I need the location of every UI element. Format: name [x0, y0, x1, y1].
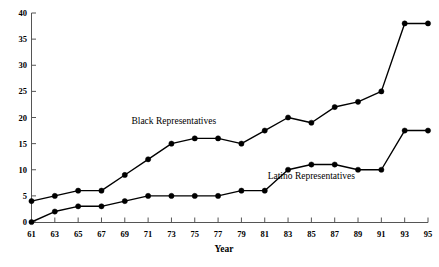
data-point — [169, 193, 174, 198]
data-point — [425, 128, 430, 133]
data-point — [76, 188, 81, 193]
y-axis: 0510152025303540 — [19, 8, 37, 227]
x-tick-label: 73 — [167, 229, 176, 239]
series-line — [32, 23, 429, 201]
x-tick-label: 77 — [214, 229, 223, 239]
x-tick-label: 69 — [121, 229, 130, 239]
data-point — [122, 172, 127, 177]
data-point — [379, 167, 384, 172]
data-point — [192, 136, 197, 141]
x-tick-label: 75 — [191, 229, 200, 239]
data-point — [332, 162, 337, 167]
data-point — [215, 193, 220, 198]
x-tick-label: 87 — [330, 229, 339, 239]
x-tick-label: 89 — [354, 229, 363, 239]
data-point — [262, 128, 267, 133]
data-point — [332, 104, 337, 109]
data-point — [52, 193, 57, 198]
line-chart: 0510152025303540 61636567697173757779818… — [0, 0, 439, 267]
series-group — [29, 21, 431, 225]
data-point — [29, 199, 34, 204]
y-tick-label: 15 — [19, 139, 28, 149]
series-line — [32, 131, 429, 222]
data-point — [309, 162, 314, 167]
data-point — [99, 204, 104, 209]
x-tick-label: 95 — [424, 229, 433, 239]
x-tick-label: 67 — [97, 229, 106, 239]
data-point — [402, 128, 407, 133]
y-tick-label: 0 — [23, 217, 27, 227]
series-annotation-label: Black Representatives — [131, 116, 216, 126]
x-tick-group: 616365676971737577798183858789919395 — [27, 218, 432, 240]
data-point — [285, 115, 290, 120]
x-tick-label: 85 — [307, 229, 316, 239]
y-tick-label: 25 — [19, 86, 28, 96]
y-tick-label: 40 — [19, 8, 28, 18]
x-tick-label: 93 — [400, 229, 409, 239]
x-tick-label: 61 — [27, 229, 36, 239]
y-tick-group: 0510152025303540 — [19, 8, 37, 227]
x-tick-label: 81 — [260, 229, 269, 239]
chart-container: 0510152025303540 61636567697173757779818… — [0, 0, 439, 267]
x-tick-label: 91 — [377, 229, 386, 239]
data-point — [215, 136, 220, 141]
x-tick-label: 83 — [284, 229, 293, 239]
y-tick-label: 35 — [19, 34, 28, 44]
y-tick-label: 20 — [19, 113, 28, 123]
data-point — [76, 204, 81, 209]
data-point — [192, 193, 197, 198]
data-point — [239, 188, 244, 193]
data-point — [402, 21, 407, 26]
series-annotation-label: Latino Representatives — [268, 171, 356, 181]
data-point — [122, 199, 127, 204]
data-point — [146, 193, 151, 198]
x-tick-label: 65 — [74, 229, 83, 239]
x-axis: 616365676971737577798183858789919395 — [27, 218, 432, 240]
series-latino-representatives — [29, 128, 431, 225]
x-tick-label: 79 — [237, 229, 246, 239]
series-black-representatives — [29, 21, 431, 204]
data-point — [99, 188, 104, 193]
data-point — [52, 209, 57, 214]
y-tick-label: 10 — [19, 165, 28, 175]
x-axis-title: Year — [215, 244, 235, 254]
data-point — [309, 120, 314, 125]
y-tick-label: 5 — [23, 191, 27, 201]
data-point — [146, 157, 151, 162]
data-point — [425, 21, 430, 26]
data-point — [355, 167, 360, 172]
x-tick-label: 71 — [144, 229, 153, 239]
data-point — [169, 141, 174, 146]
x-tick-label: 63 — [51, 229, 60, 239]
y-tick-label: 30 — [19, 60, 28, 70]
data-point — [239, 141, 244, 146]
data-point — [379, 89, 384, 94]
data-point — [355, 99, 360, 104]
data-point — [262, 188, 267, 193]
data-point — [29, 219, 34, 224]
